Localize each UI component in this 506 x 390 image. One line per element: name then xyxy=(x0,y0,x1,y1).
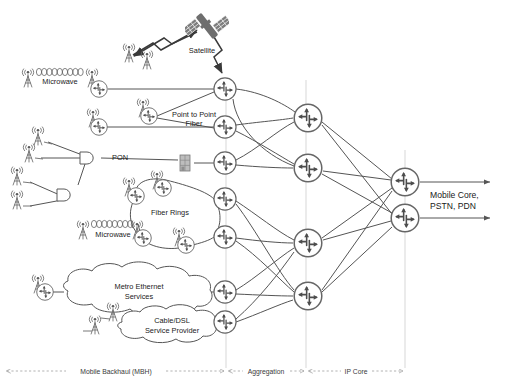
router-access-metro-ethernet xyxy=(37,284,54,301)
zone-label-ip-core: IP Core xyxy=(345,368,368,375)
link-edge1-agg1 xyxy=(236,89,295,112)
label-mobile-core-line1: Mobile Core, xyxy=(430,190,479,200)
link-pon-feeder-1 xyxy=(48,142,85,156)
label-fiber-rings: Fiber Rings xyxy=(151,208,189,217)
label-pon: PON xyxy=(112,153,128,162)
router-access-ring-lower-right xyxy=(178,237,195,254)
satellite-icon xyxy=(182,2,232,50)
router-aggregation-1 xyxy=(294,104,322,132)
router-access-p2p-a xyxy=(91,119,108,136)
link-edge4-agg3 xyxy=(236,201,294,240)
router-access-ring-lower-left xyxy=(135,230,152,247)
pon-splitters xyxy=(57,152,93,201)
link-edge7-agg3 xyxy=(236,252,294,319)
router-access-p2p-b xyxy=(141,108,158,125)
label-point-to-point-fiber-line1: Point to Point xyxy=(172,110,216,119)
router-edge-fiber-ring-top xyxy=(214,188,236,210)
diagram-canvas: Satellite Microwave Microwave Point to P… xyxy=(0,0,506,390)
pon-splitter-main xyxy=(80,152,93,164)
tower-pon-2 xyxy=(23,144,34,162)
link-agg4-core2 xyxy=(322,227,392,292)
egress-arrows xyxy=(420,182,490,218)
link-edge5-agg3 xyxy=(236,238,293,243)
tower-satellite-b xyxy=(141,51,152,69)
label-point-to-point-fiber-line2: Fiber xyxy=(186,119,203,128)
link-edge2-agg2 xyxy=(236,131,294,164)
router-core-2 xyxy=(391,204,419,232)
tower-pon-3 xyxy=(11,167,22,185)
link-agg2-core1 xyxy=(323,171,391,180)
router-edge-pon xyxy=(214,152,236,174)
link-edge6-agg4 xyxy=(236,294,293,296)
link-agg1-core1 xyxy=(322,122,392,179)
router-edge-satellite xyxy=(214,78,236,100)
label-metro-ethernet-line1: Metro Ethernet xyxy=(115,282,164,291)
router-edge-fiber-ring-bottom xyxy=(214,226,236,248)
zone-label-aggregation: Aggregation xyxy=(248,368,285,376)
tower-microwave-mid-left xyxy=(77,221,88,239)
link-agg4-core1 xyxy=(322,191,392,290)
label-microwave-top: Microwave xyxy=(42,77,77,86)
router-edge-metro-ethernet xyxy=(214,281,236,303)
label-cable-dsl-line1: Cable/DSL xyxy=(154,316,190,325)
link-pon-feeder-3 xyxy=(78,164,85,185)
link-edge1-agg2 xyxy=(233,99,294,166)
label-microwave-mid: Microwave xyxy=(95,230,130,239)
tower-pon-4 xyxy=(11,191,22,209)
tower-pon-1 xyxy=(32,127,43,145)
label-metro-ethernet-line2: Services xyxy=(125,292,154,301)
router-aggregation-2 xyxy=(294,154,322,182)
tower-microwave-left xyxy=(22,69,33,87)
label-satellite: Satellite xyxy=(189,46,215,55)
router-access-ring-upper-left xyxy=(128,188,145,205)
tower-satellite-a xyxy=(123,44,134,62)
link-agg1-core2 xyxy=(322,125,392,214)
router-aggregation-3 xyxy=(294,229,322,257)
router-aggregation-4 xyxy=(294,282,322,310)
microwave-link-mid xyxy=(91,220,133,227)
link-edge3-agg2 xyxy=(236,165,293,168)
microwave-link-top xyxy=(36,68,83,75)
router-edge-p2p-fiber xyxy=(214,116,236,138)
router-access-ring-upper-right xyxy=(155,180,172,197)
edge-routers xyxy=(214,78,236,333)
router-edge-cable-dsl xyxy=(214,311,236,333)
pon-splitter-secondary xyxy=(57,189,70,201)
label-cable-dsl-line2: Service Provider xyxy=(145,326,200,335)
link-ring-upper xyxy=(136,179,214,199)
link-edge2-agg1 xyxy=(236,118,293,125)
zone-label-mobile-backhaul: Mobile Backhaul (MBH) xyxy=(80,368,151,376)
label-mobile-core-line2: PSTN, PDN xyxy=(430,201,476,211)
building-icon xyxy=(180,155,190,171)
link-agg2-core2 xyxy=(322,174,392,213)
network-topology-diagram: Satellite Microwave Microwave Point to P… xyxy=(0,0,506,390)
router-access-microwave-top xyxy=(91,81,108,98)
router-core-1 xyxy=(391,168,419,196)
satellite-beam-downlink-right xyxy=(214,37,222,73)
aggregation-routers xyxy=(294,104,322,310)
